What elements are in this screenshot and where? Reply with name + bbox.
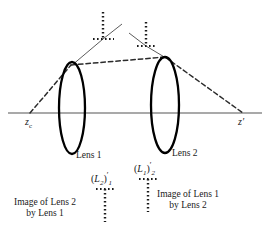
chief-ray-left-lower [71,39,103,66]
diagram-canvas [0,0,268,228]
image-marker-2-caption-line-1: Image of Lens 1 [157,189,219,200]
chief-ray-right-upper [129,33,146,46]
lens-2-shape [151,57,179,153]
image-marker-1-symbol-outer-sub: 1 [109,179,113,187]
axis-label-zprime: z′ [238,116,244,127]
chief-ray-left-upper [103,24,122,39]
image-marker-2-symbol: (L1)′2 [134,162,155,178]
image-marker-1-caption-line-2: by Lens 1 [14,208,76,219]
chief-ray-right-lower [146,46,166,58]
ray-lens1-to-lens2 [71,57,165,65]
image-marker-1-symbol: (L2)′1 [91,172,112,188]
image-marker-1-caption: Image of Lens 2 by Lens 1 [14,197,76,218]
axis-label-zc-sub: c [29,122,32,130]
lens-2-label: Lens 2 [172,148,198,159]
axis-label-zc: zc [25,116,32,131]
image-marker-1-caption-line-1: Image of Lens 2 [14,197,76,208]
image-marker-2-symbol-outer-sub: 2 [152,169,156,177]
image-marker-2-caption-line-2: by Lens 2 [157,200,219,211]
lens-1-shape [59,62,85,154]
image-marker-2-caption: Image of Lens 1 by Lens 2 [157,189,219,210]
lens-1-label: Lens 1 [76,150,102,161]
optics-diagram: zc z′ Lens 1 Lens 2 (L2)′1 (L1)′2 Image … [0,0,268,228]
